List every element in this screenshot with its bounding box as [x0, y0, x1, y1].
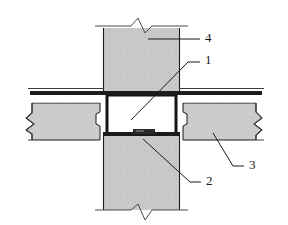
- left-slab-body: [26, 103, 100, 140]
- bearing-pad-highlight: [136, 130, 144, 132]
- callout-4-label: 4: [205, 30, 212, 45]
- column-shaft-lower: [103, 134, 180, 210]
- bearing-pad-group: [133, 129, 155, 134]
- void-gap-right: [179, 96, 262, 103]
- callout-1-label: 1: [205, 52, 212, 67]
- detail-drawing-canvas: 4 1 3 2: [0, 0, 288, 225]
- callout-2-label: 2: [206, 173, 213, 188]
- structural-detail-svg: 4 1 3 2: [0, 0, 288, 225]
- left-slab-group: [26, 103, 100, 140]
- callout-3-label: 3: [249, 157, 256, 172]
- right-slab-body: [183, 103, 262, 140]
- joint-top-beam-line: [103, 91, 180, 95]
- topping-band-left: [30, 91, 104, 95]
- joint-cavity: [107, 96, 176, 134]
- column-shaft-upper: [103, 28, 180, 95]
- void-gap-left: [30, 96, 104, 103]
- topping-band-right: [179, 91, 262, 95]
- right-slab-group: [183, 103, 262, 140]
